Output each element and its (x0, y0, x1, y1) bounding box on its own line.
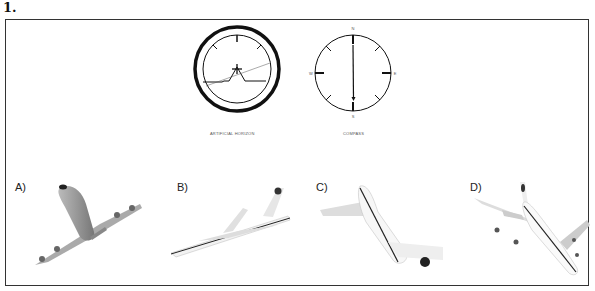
option-a-airplane-image[interactable] (30, 182, 150, 277)
option-d-airplane-image[interactable] (472, 180, 592, 280)
svg-text:W: W (309, 71, 313, 76)
option-a-label: A) (15, 181, 26, 193)
svg-text:N: N (352, 26, 355, 31)
question-number: 1. (3, 0, 17, 15)
svg-text:E: E (394, 71, 397, 76)
artificial-horizon-icon (192, 24, 282, 114)
compass-caption: COMPASS (343, 131, 364, 136)
compass-icon: N W E S (308, 21, 398, 121)
option-b-airplane-image[interactable] (168, 183, 298, 268)
horizon-caption: ARTIFICIAL HORIZON (210, 131, 255, 136)
svg-text:S: S (352, 114, 355, 119)
option-c-airplane-image[interactable] (318, 182, 448, 277)
